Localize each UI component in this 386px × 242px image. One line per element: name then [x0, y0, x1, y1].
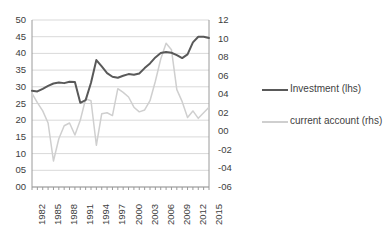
x-axis-tick-label: 1982 — [36, 204, 47, 225]
left-axis-tick-label: 45 — [2, 32, 26, 42]
chart-legend: Investment (lhs) current account (rhs) — [262, 82, 386, 146]
x-axis-tick-label: 2009 — [181, 204, 192, 225]
x-axis-tick-label: 2003 — [149, 204, 160, 225]
x-axis-tick-label: 1985 — [52, 204, 63, 225]
x-axis-tick-label: 2012 — [197, 204, 208, 225]
right-axis-tick-label: 08 — [218, 52, 244, 62]
x-axis-tick-label: 1991 — [84, 204, 95, 225]
x-axis-tick-label: 1994 — [100, 204, 111, 225]
left-axis-tick-label: 00 — [2, 182, 26, 192]
right-axis-tick-label: 02 — [218, 108, 244, 118]
legend-line-icon-investment — [262, 85, 288, 95]
x-axis-tick-label: 2000 — [133, 204, 144, 225]
left-axis-tick-label: 40 — [2, 48, 26, 58]
left-axis-tick-label: 15 — [2, 132, 26, 142]
legend-item-current-account[interactable]: current account (rhs) — [262, 114, 386, 127]
left-axis-tick-label: 50 — [2, 15, 26, 25]
right-axis-tick-label: 12 — [218, 15, 244, 25]
x-axis-tick-label: 2006 — [165, 204, 176, 225]
right-axis-tick-label: -02 — [218, 145, 244, 155]
legend-line-icon-current-account — [262, 117, 288, 127]
legend-label-investment: Investment (lhs) — [288, 82, 361, 95]
x-axis-tick-label: 2015 — [213, 204, 224, 225]
right-axis-tick-label: -04 — [218, 163, 244, 173]
right-axis-tick-label: 00 — [218, 126, 244, 136]
x-axis-tick-label: 1988 — [68, 204, 79, 225]
legend-item-investment[interactable]: Investment (lhs) — [262, 82, 386, 95]
left-axis-tick-label: 20 — [2, 115, 26, 125]
left-axis-tick-label: 10 — [2, 149, 26, 159]
left-axis-tick-label: 25 — [2, 99, 26, 109]
right-axis-tick-label: 10 — [218, 34, 244, 44]
legend-label-current-account: current account (rhs) — [288, 114, 382, 127]
left-axis-tick-label: 05 — [2, 165, 26, 175]
series-line-current-account — [32, 43, 209, 161]
right-axis-tick-label: 04 — [218, 89, 244, 99]
right-axis-tick-label: -06 — [218, 182, 244, 192]
left-axis-tick-label: 30 — [2, 82, 26, 92]
right-axis-tick-label: 06 — [218, 71, 244, 81]
x-axis-tick-label: 1997 — [116, 204, 127, 225]
chart-figure: 0005101520253035404550 -06-04-0200020406… — [0, 0, 386, 242]
left-axis-tick-label: 35 — [2, 65, 26, 75]
